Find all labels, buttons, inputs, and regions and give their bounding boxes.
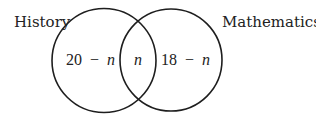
mathematics-only-region-label: 18 − n [161,51,210,68]
mathematics-only-operator: − [185,51,194,68]
venn-diagram: History Mathematics 20 − n n 18 − n [0,0,316,115]
history-only-number: 20 [66,51,82,68]
mathematics-only-number: 18 [161,51,177,68]
mathematics-only-variable: n [202,51,210,68]
intersection-region-label: n [134,51,142,68]
mathematics-label: Mathematics [222,13,316,31]
history-only-operator: − [90,51,99,68]
history-only-region-label: 20 − n [66,51,115,68]
history-label: History [14,13,71,31]
history-only-variable: n [107,51,115,68]
